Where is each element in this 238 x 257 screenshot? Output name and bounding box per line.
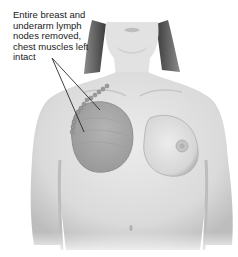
callout-label: Entire breast and underarm lymph nodes r… — [13, 10, 103, 63]
callout-line-5: intact — [13, 52, 103, 63]
callout-line-3: nodes removed, — [13, 31, 103, 42]
callout-line-1: Entire breast and — [13, 10, 103, 21]
mastectomy-figure: Entire breast and underarm lymph nodes r… — [0, 0, 238, 257]
removed-breast-region — [71, 102, 132, 172]
